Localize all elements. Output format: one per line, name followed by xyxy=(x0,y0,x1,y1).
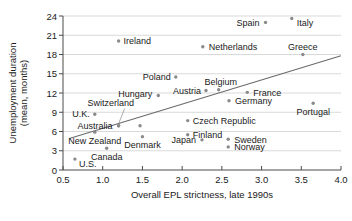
point-label: Poland xyxy=(143,72,171,82)
data-point xyxy=(227,99,230,102)
y-tick-label-3: 3 xyxy=(52,145,57,156)
data-point xyxy=(138,124,141,127)
y-axis-title-line1: Unemployment duration xyxy=(7,43,18,144)
data-point xyxy=(174,75,177,78)
point-label: Austria xyxy=(173,86,201,96)
point-label: Italy xyxy=(297,18,314,28)
y-tick-label-6: 6 xyxy=(52,126,57,137)
point-label: Japan xyxy=(171,135,196,145)
x-tick-label-3.5: 3.5 xyxy=(295,174,308,185)
point-label: Belgium xyxy=(204,77,237,87)
data-point xyxy=(73,157,76,160)
data-point xyxy=(246,91,249,94)
x-tick-label-1.0: 1.0 xyxy=(96,174,109,185)
x-tick-label-3.0: 3.0 xyxy=(255,174,268,185)
point-label: U.S. xyxy=(79,159,97,169)
chart-canvas: 03691215182124 0.51.01.52.02.53.03.54.0 … xyxy=(0,0,352,221)
point-label: Portugal xyxy=(296,107,330,117)
data-point xyxy=(290,17,293,20)
y-tick-label-24: 24 xyxy=(46,11,57,22)
point-label: Czech Republic xyxy=(193,116,257,126)
point-label: Greece xyxy=(288,42,318,52)
data-point xyxy=(117,39,120,42)
data-point xyxy=(186,119,189,122)
data-point xyxy=(141,135,144,138)
y-tick-label-15: 15 xyxy=(46,68,57,79)
point-label: Denmark xyxy=(124,140,161,150)
x-tick-labels: 0.51.01.52.02.53.03.54.0 xyxy=(56,174,347,185)
data-point xyxy=(227,145,230,148)
data-point xyxy=(227,138,230,141)
data-point xyxy=(93,112,96,115)
data-point xyxy=(157,94,160,97)
data-point xyxy=(117,124,120,127)
point-label: New Zealand xyxy=(68,136,121,146)
x-tick-label-0.5: 0.5 xyxy=(56,174,69,185)
point-label: Germany xyxy=(235,96,273,106)
point-label: Ireland xyxy=(124,36,152,46)
y-tick-label-9: 9 xyxy=(52,107,57,118)
y-tick-label-18: 18 xyxy=(46,49,57,60)
x-tick-label-1.5: 1.5 xyxy=(136,174,149,185)
y-tick-label-21: 21 xyxy=(46,30,57,41)
x-tick-label-2.0: 2.0 xyxy=(176,174,189,185)
y-tick-labels: 03691215182124 xyxy=(46,11,63,176)
point-label: Spain xyxy=(237,18,260,28)
x-tick-label-2.5: 2.5 xyxy=(215,174,228,185)
data-point xyxy=(105,146,108,149)
data-point xyxy=(312,102,315,105)
data-point xyxy=(301,53,304,56)
point-label: Australia xyxy=(78,121,113,131)
y-tick-label-12: 12 xyxy=(46,88,57,99)
scatter-chart: 03691215182124 0.51.01.52.02.53.03.54.0 … xyxy=(0,0,352,221)
y-axis-title-line2: (mean, months) xyxy=(18,60,29,127)
point-label: Norway xyxy=(234,142,265,152)
point-label: U.K. xyxy=(72,109,90,119)
data-point xyxy=(93,130,96,133)
x-axis-title: Overall EPL strictness, late 1990s xyxy=(131,189,273,200)
data-point xyxy=(217,88,220,91)
x-tick-label-4.0: 4.0 xyxy=(334,174,347,185)
point-label: Netherlands xyxy=(209,42,258,52)
data-point xyxy=(201,45,204,48)
data-point xyxy=(204,89,207,92)
data-point xyxy=(264,21,267,24)
point-label: Switzerland xyxy=(87,98,134,108)
point-label: Finland xyxy=(193,130,223,140)
